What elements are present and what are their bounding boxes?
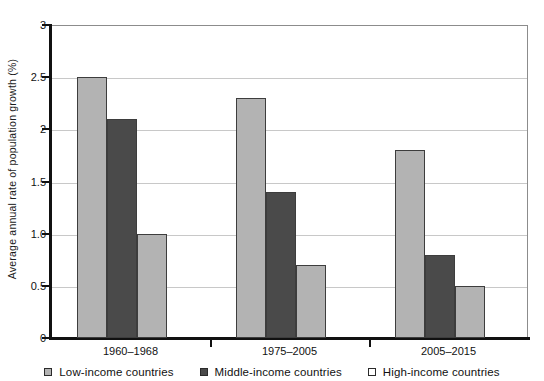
- y-axis-tick-mark: [42, 181, 49, 183]
- bar: [296, 265, 326, 338]
- legend-swatch-high-income: [368, 368, 376, 376]
- legend-label: Low-income countries: [59, 366, 173, 378]
- y-axis-tick-mark: [42, 285, 49, 287]
- legend-swatch-low-income: [44, 368, 52, 376]
- bar: [455, 286, 485, 338]
- legend-item[interactable]: Middle-income countries: [200, 366, 342, 378]
- y-axis-tick-mark: [42, 128, 49, 130]
- chart-legend: Low-income countriesMiddle-income countr…: [0, 362, 544, 381]
- legend-item[interactable]: High-income countries: [368, 366, 500, 378]
- bar: [137, 234, 167, 338]
- x-axis-category-label: 1960–1968: [103, 345, 158, 357]
- legend-item[interactable]: Low-income countries: [44, 366, 173, 378]
- bar: [107, 119, 137, 338]
- bar: [425, 255, 455, 338]
- x-axis-tick-mark: [369, 339, 371, 347]
- bar: [236, 98, 266, 338]
- legend-label: High-income countries: [383, 366, 500, 378]
- bar: [395, 150, 425, 338]
- x-axis-tick-mark: [210, 339, 212, 347]
- bars-layer: [51, 25, 528, 338]
- y-axis-tick-labels: 00.51.01.522.53: [22, 0, 46, 381]
- y-axis-title: Average annual rate of population growth…: [0, 0, 24, 338]
- bar: [77, 77, 107, 338]
- y-axis-tick-mark: [42, 24, 49, 26]
- y-axis-tick-mark: [42, 337, 49, 339]
- legend-label: Middle-income countries: [215, 366, 342, 378]
- population-growth-bar-chart: Average annual rate of population growth…: [0, 0, 544, 381]
- legend-swatch-middle-income: [200, 368, 208, 376]
- y-axis-tick-mark: [42, 233, 49, 235]
- x-axis-category-label: 2005–2015: [421, 345, 476, 357]
- y-axis-title-text: Average annual rate of population growth…: [6, 59, 18, 279]
- x-axis-category-label: 1975–2005: [262, 345, 317, 357]
- bar: [266, 192, 296, 338]
- y-axis-tick-mark: [42, 76, 49, 78]
